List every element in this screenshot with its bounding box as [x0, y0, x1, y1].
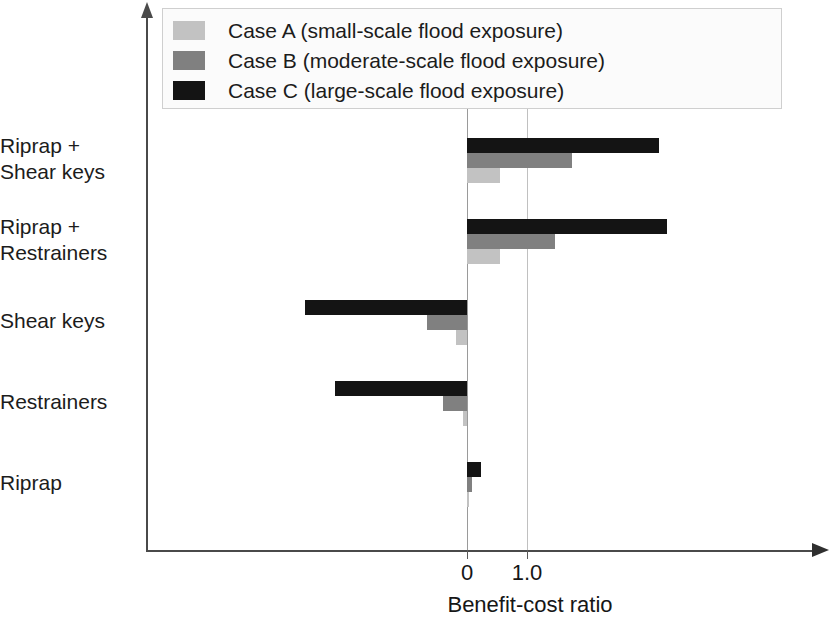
arrow-up-icon	[141, 2, 153, 18]
category-label-text: Riprap + Restrainers	[0, 214, 138, 266]
category-label-1: Restrainers	[0, 389, 138, 415]
bar-case-a-group-0	[467, 492, 469, 507]
bar-case-c-group-3	[467, 219, 667, 234]
x-tick-0	[467, 550, 468, 559]
bar-case-b-group-1	[443, 396, 467, 411]
bar-case-a-group-3	[467, 249, 500, 264]
category-label-text: Shear keys	[0, 308, 138, 334]
bar-case-a-group-2	[456, 330, 467, 345]
category-label-2: Shear keys	[0, 308, 138, 334]
bar-case-a-group-1	[463, 411, 467, 426]
bar-case-b-group-4	[467, 153, 572, 168]
legend-swatch-case-b-icon	[173, 51, 205, 70]
y-axis-line	[146, 14, 148, 552]
category-label-text: Restrainers	[0, 389, 138, 415]
legend-label-case-a: Case A (small-scale flood exposure)	[228, 17, 563, 44]
x-tick-1	[527, 550, 528, 559]
category-label-0: Riprap	[0, 470, 138, 496]
x-tick-label-0: 0	[437, 560, 497, 586]
category-label-text: Riprap	[0, 470, 138, 496]
legend: Case A (small-scale flood exposure) Case…	[162, 8, 782, 109]
category-label-text: Riprap + Shear keys	[0, 133, 138, 185]
bar-case-c-group-1	[335, 381, 467, 396]
category-label-4: Riprap + Shear keys	[0, 133, 138, 185]
chart-page: 0 1.0 Benefit-cost ratio RiprapRestraine…	[0, 0, 839, 628]
bar-case-c-group-0	[467, 462, 481, 477]
bar-case-b-group-2	[427, 315, 467, 330]
x-axis-line	[146, 550, 818, 552]
arrow-right-icon	[812, 543, 829, 557]
bar-case-c-group-2	[305, 300, 467, 315]
legend-swatch-case-a-icon	[173, 21, 205, 40]
x-axis-title: Benefit-cost ratio	[380, 592, 680, 618]
category-label-3: Riprap + Restrainers	[0, 214, 138, 266]
bar-case-c-group-4	[467, 138, 659, 153]
legend-label-case-c: Case C (large-scale flood exposure)	[228, 77, 564, 104]
bar-case-b-group-3	[467, 234, 555, 249]
bar-case-b-group-0	[467, 477, 472, 492]
bar-case-a-group-4	[467, 168, 500, 183]
legend-swatch-case-c-icon	[173, 81, 205, 100]
legend-label-case-b: Case B (moderate-scale flood exposure)	[228, 47, 605, 74]
x-tick-label-1: 1.0	[497, 560, 557, 586]
